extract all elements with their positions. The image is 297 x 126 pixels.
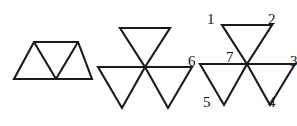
panel-3-pinwheel-labeled xyxy=(200,25,295,105)
figures-canvas xyxy=(0,0,297,126)
pinwheel-top-triangle xyxy=(120,28,170,67)
trapezoid-inner-edge-right xyxy=(56,42,78,79)
geometry-figure-sheet: 1 2 3 4 5 6 7 xyxy=(0,0,297,126)
panel-2-pinwheel-three-triangles xyxy=(98,28,192,108)
trapezoid-inner-edge-left xyxy=(34,42,56,79)
vertex-label-5: 5 xyxy=(203,95,211,110)
vertex-label-2: 2 xyxy=(268,12,276,27)
vertex-label-4: 4 xyxy=(268,95,276,110)
vertex-label-6: 6 xyxy=(188,54,196,69)
pinwheel-lower-left-triangle xyxy=(98,67,145,108)
pinwheel-lower-right-triangle xyxy=(145,67,192,108)
vertex-label-3: 3 xyxy=(290,54,297,69)
vertex-label-7: 7 xyxy=(226,50,234,65)
vertex-label-1: 1 xyxy=(207,12,215,27)
panel-1-trapezoid-three-triangles xyxy=(14,42,92,79)
